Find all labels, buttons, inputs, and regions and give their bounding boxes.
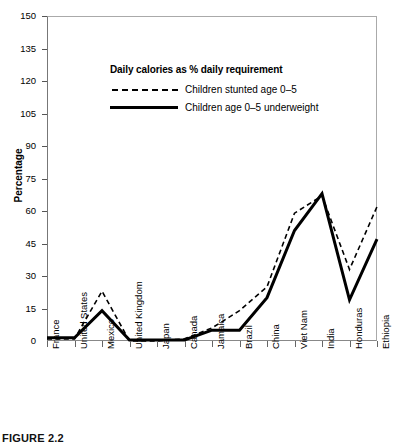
legend-item-underweight: Children age 0–5 underweight [110,102,360,113]
x-tick-label: Viet Nam [299,310,309,349]
x-tick-label: Canada [189,316,199,349]
x-tick-label: France [51,319,61,349]
chart-figure: Percentage 0153045607590105120135150 Fra… [0,0,403,445]
x-tick-label: Honduras [354,308,364,349]
x-tick-label: Brazil [244,325,254,349]
legend-title: Daily calories as % daily requirement [110,64,360,75]
chart-legend: Daily calories as % daily requirement Ch… [110,64,360,120]
x-tick-label: Jamaica [216,314,226,349]
figure-caption: FIGURE 2.2 [2,432,64,445]
x-tick-label: Mexico [106,319,116,349]
x-tick-label: China [271,324,281,349]
legend-label-underweight: Children age 0–5 underweight [185,102,318,113]
figure-caption-label: FIGURE 2.2 [2,432,64,444]
x-tick-label: Japan [161,323,171,349]
legend-item-stunted: Children stunted age 0–5 [110,84,360,95]
x-tick-label: India [326,328,336,349]
x-tick-label: Ethiopia [381,315,391,349]
x-tick-label: United States [79,292,89,349]
x-tick-label: United Kingdom [134,281,144,349]
legend-label-stunted: Children stunted age 0–5 [185,84,297,95]
dashed-line-swatch-icon [110,85,178,95]
solid-line-swatch-icon [110,103,178,113]
